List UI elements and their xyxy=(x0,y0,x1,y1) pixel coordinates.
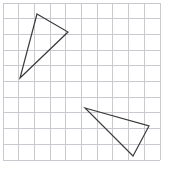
grid-figure-canvas xyxy=(0,0,170,171)
figure-svg xyxy=(0,0,170,171)
